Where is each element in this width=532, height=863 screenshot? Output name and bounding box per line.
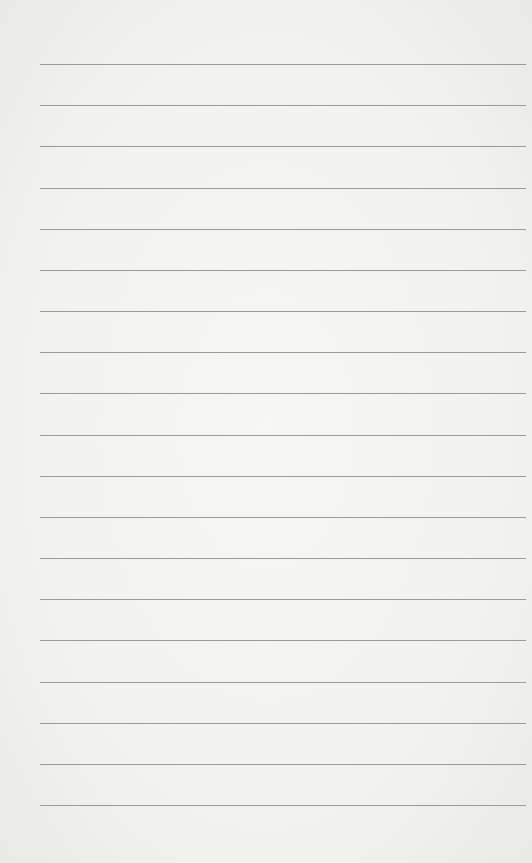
ruled-line xyxy=(40,188,526,189)
ruled-line xyxy=(40,517,526,518)
ruled-line xyxy=(40,229,526,230)
ruled-line xyxy=(40,64,526,65)
ruled-line xyxy=(40,146,526,147)
ruled-line xyxy=(40,764,526,765)
ruled-line xyxy=(40,682,526,683)
ruled-line xyxy=(40,723,526,724)
ruled-line xyxy=(40,558,526,559)
ruled-line xyxy=(40,311,526,312)
ruled-line xyxy=(40,435,526,436)
ruled-line xyxy=(40,805,526,806)
ruled-line xyxy=(40,476,526,477)
ruled-line xyxy=(40,393,526,394)
ruled-line xyxy=(40,640,526,641)
ruled-line xyxy=(40,270,526,271)
ruled-line xyxy=(40,105,526,106)
lined-paper xyxy=(0,0,532,863)
ruled-line xyxy=(40,352,526,353)
ruled-line xyxy=(40,599,526,600)
